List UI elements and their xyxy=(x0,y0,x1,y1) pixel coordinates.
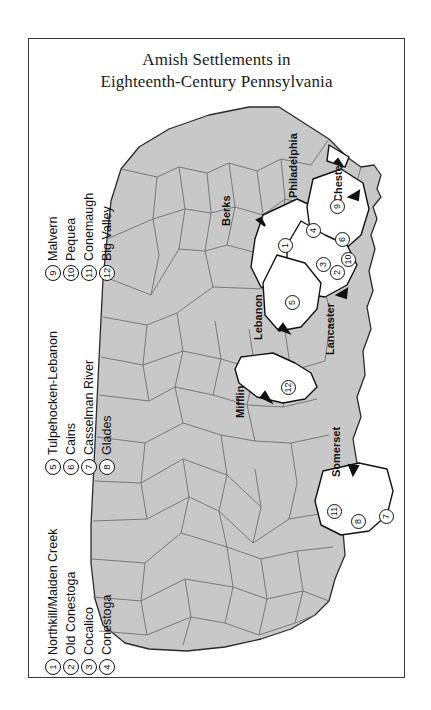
legend-number-9: 9 xyxy=(45,265,61,281)
legend-label-11: Conemaugh xyxy=(83,193,96,261)
legend-number-1: 1 xyxy=(45,659,61,675)
settlement-marker-7[interactable]: 7 xyxy=(379,509,394,524)
settlement-marker-9[interactable]: 9 xyxy=(330,199,345,214)
settlement-marker-2[interactable]: 2 xyxy=(330,265,345,280)
legend-item-11[interactable]: 11 Conemaugh xyxy=(81,193,97,281)
county-label-somerset: Somerset xyxy=(331,427,342,477)
legend-item-7[interactable]: 7 Casselman River xyxy=(81,360,97,475)
legend-label-12: Big Valley xyxy=(101,206,114,261)
settlement-marker-1[interactable]: 1 xyxy=(278,238,293,253)
county-label-mifflin: Mifflin xyxy=(235,386,246,418)
legend-number-8: 8 xyxy=(99,459,115,475)
legend-label-8: Glades xyxy=(101,415,114,455)
legend-label-4: Conestoga xyxy=(101,595,114,655)
legend-item-9[interactable]: 9 Malvern xyxy=(45,217,61,281)
legend-item-6[interactable]: 6 Cains xyxy=(63,423,79,475)
legend-label-10: Pequea xyxy=(65,218,78,261)
legend-label-9: Malvern xyxy=(47,217,60,261)
legend-number-2: 2 xyxy=(63,659,79,675)
legend-number-12: 12 xyxy=(99,265,115,281)
legend-number-7: 7 xyxy=(81,459,97,475)
map-layers xyxy=(91,107,393,651)
county-label-berks: Berks xyxy=(221,195,232,226)
legend-item-8[interactable]: 8 Glades xyxy=(99,415,115,475)
legend-label-3: Cocalico xyxy=(83,607,96,655)
legend-label-7: Casselman River xyxy=(83,360,96,455)
legend-label-6: Cains xyxy=(65,423,78,455)
legend-number-6: 6 xyxy=(63,459,79,475)
county-label-philadelphia: Philadelphia xyxy=(288,133,299,198)
county-label-lebanon: Lebanon xyxy=(253,294,264,340)
county-label-lancaster: Lancaster xyxy=(325,303,336,355)
settlement-marker-6[interactable]: 6 xyxy=(335,232,350,247)
legend-label-2: Old Conestoga xyxy=(65,572,78,655)
legend-number-4: 4 xyxy=(99,659,115,675)
legend-item-5[interactable]: 5 Tulpehocken-Lebanon xyxy=(45,331,61,475)
legend-label-1: Northkill/Maiden Creek xyxy=(47,529,60,655)
legend-item-1[interactable]: 1 Northkill/Maiden Creek xyxy=(45,529,61,675)
settlement-marker-8[interactable]: 8 xyxy=(351,514,366,529)
figure-frame: Amish Settlements in Eighteenth-Century … xyxy=(28,38,405,678)
legend-number-5: 5 xyxy=(45,459,61,475)
settlement-marker-10[interactable]: 10 xyxy=(341,252,356,267)
legend-item-4[interactable]: 4 Conestoga xyxy=(99,595,115,675)
legend-item-12[interactable]: 12 Big Valley xyxy=(99,206,115,281)
settlement-marker-4[interactable]: 4 xyxy=(306,223,321,238)
legend-label-5: Tulpehocken-Lebanon xyxy=(47,331,60,455)
legend-item-10[interactable]: 10 Pequea xyxy=(63,218,79,281)
settlement-marker-12[interactable]: 12 xyxy=(281,380,296,395)
settlement-marker-3[interactable]: 3 xyxy=(316,257,331,272)
legend-item-2[interactable]: 2 Old Conestoga xyxy=(63,572,79,675)
legend-number-11: 11 xyxy=(81,265,97,281)
legend-item-3[interactable]: 3 Cocalico xyxy=(81,607,97,675)
settlement-marker-11[interactable]: 11 xyxy=(327,504,342,519)
legend-number-10: 10 xyxy=(63,265,79,281)
legend-number-3: 3 xyxy=(81,659,97,675)
settlement-marker-5[interactable]: 5 xyxy=(285,295,300,310)
county-label-chester: Chester xyxy=(333,161,344,202)
